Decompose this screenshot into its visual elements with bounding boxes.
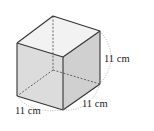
width-label: 11 cm (15, 106, 41, 117)
height-label: 11 cm (104, 54, 130, 65)
depth-label: 11 cm (82, 99, 108, 110)
